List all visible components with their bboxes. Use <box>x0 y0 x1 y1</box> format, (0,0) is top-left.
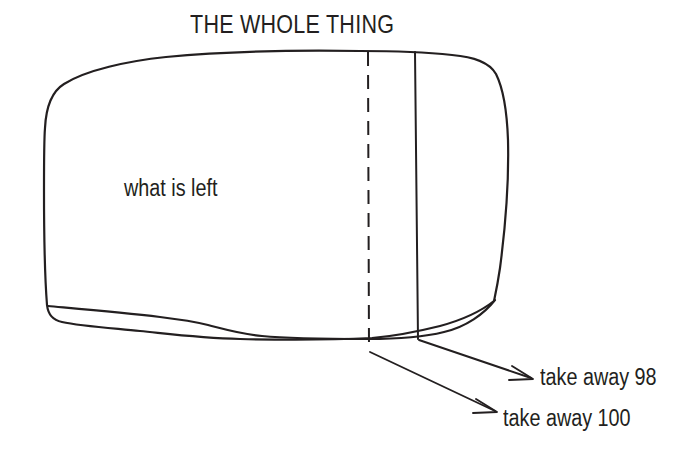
arrow-to-take-away-98 <box>419 340 531 378</box>
diagram-canvas: THE WHOLE THING what is left take away 9… <box>0 0 690 458</box>
label-take-away-98: take away 98 <box>540 366 657 389</box>
diagram-title: THE WHOLE THING <box>190 12 394 37</box>
blob-bottom-edge <box>48 300 495 339</box>
label-take-away-100: take away 100 <box>503 407 631 430</box>
arrow-to-take-away-100 <box>370 352 495 411</box>
solid-divider-line <box>415 52 418 339</box>
blob-outline <box>44 51 508 340</box>
dashed-divider-line <box>368 52 369 351</box>
label-what-is-left: what is left <box>124 177 217 200</box>
